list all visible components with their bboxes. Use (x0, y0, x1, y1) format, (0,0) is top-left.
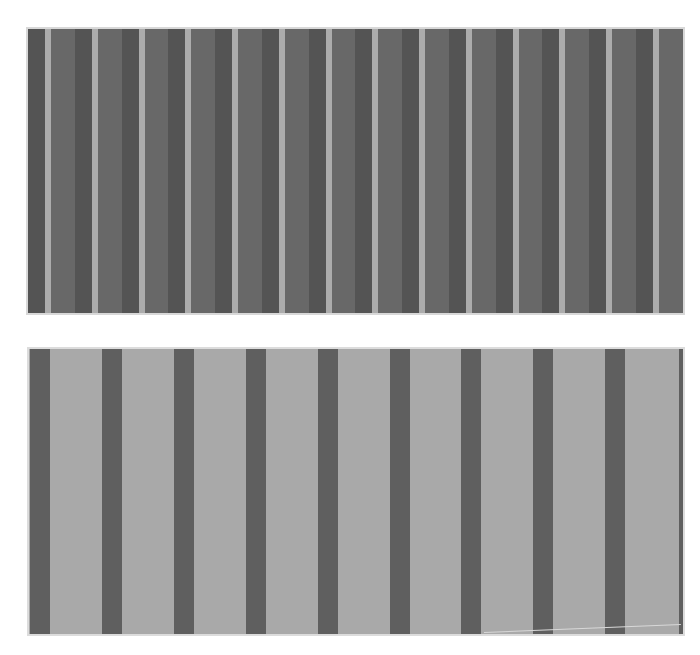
dark-band (636, 29, 653, 313)
dark-bar (533, 349, 553, 634)
dark-bar (246, 349, 266, 634)
dark-bar (461, 349, 481, 634)
dark-band (168, 29, 185, 313)
right-edge-dark-strip (679, 349, 683, 634)
mid-band (565, 29, 589, 313)
dark-band (75, 29, 92, 313)
mid-band (285, 29, 309, 313)
dark-bar (174, 349, 194, 634)
dark-band (309, 29, 326, 313)
bottom-stripe-panel (29, 349, 683, 634)
mid-band (612, 29, 636, 313)
mid-band (51, 29, 75, 313)
diagonal-artifact-line (484, 624, 681, 633)
mid-band (425, 29, 449, 313)
mid-band (472, 29, 496, 313)
dark-bar (390, 349, 410, 634)
dark-bar (30, 349, 50, 634)
mid-band (659, 29, 683, 313)
dark-bar (605, 349, 625, 634)
dark-band (496, 29, 513, 313)
dark-band (355, 29, 372, 313)
mid-band (98, 29, 122, 313)
dark-band (262, 29, 279, 313)
dark-band (28, 29, 45, 313)
dark-band (683, 29, 684, 313)
mid-band (145, 29, 169, 313)
dark-band (402, 29, 419, 313)
mid-band (332, 29, 356, 313)
dark-band (542, 29, 559, 313)
dark-band (215, 29, 232, 313)
mid-band (519, 29, 543, 313)
mid-band (191, 29, 215, 313)
dark-band (449, 29, 466, 313)
dark-band (122, 29, 139, 313)
dark-bar (318, 349, 338, 634)
top-stripe-panel (28, 29, 683, 313)
mid-band (378, 29, 402, 313)
dark-bar (102, 349, 122, 634)
dark-band (589, 29, 606, 313)
mid-band (238, 29, 262, 313)
